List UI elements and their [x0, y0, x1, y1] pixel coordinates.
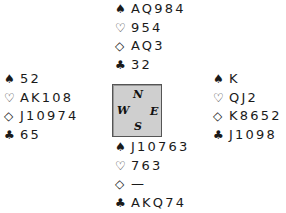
- south-clubs-row: ♣AKQ74: [115, 194, 189, 213]
- heart-icon: ♡: [115, 157, 131, 176]
- south-hearts-row: ♡763: [115, 157, 189, 176]
- west-diamonds: J10974: [20, 108, 78, 123]
- spade-icon: ♠: [115, 0, 131, 19]
- heart-icon: ♡: [115, 19, 131, 38]
- north-hearts-row: ♡954: [115, 19, 186, 38]
- east-clubs: J1098: [229, 127, 277, 142]
- spade-icon: ♠: [4, 70, 20, 89]
- west-spades: 52: [20, 71, 41, 86]
- north-diamonds-row: ◇AQ3: [115, 37, 186, 56]
- south-clubs: AKQ74: [131, 195, 186, 210]
- north-clubs: 32: [131, 57, 152, 72]
- north-diamonds: AQ3: [131, 38, 165, 53]
- east-hearts: QJ2: [229, 90, 258, 105]
- compass-south-label: S: [134, 120, 142, 133]
- west-hand: ♠52 ♡AK108 ◇J10974 ♣65: [4, 70, 78, 144]
- club-icon: ♣: [213, 126, 229, 145]
- east-spades: K: [229, 71, 240, 86]
- diamond-icon: ◇: [213, 107, 229, 126]
- north-clubs-row: ♣32: [115, 56, 186, 75]
- east-spades-row: ♠K: [213, 70, 282, 89]
- north-hand: ♠AQ984 ♡954 ◇AQ3 ♣32: [115, 0, 186, 74]
- compass-north-label: N: [133, 88, 143, 101]
- diamond-icon: ◇: [115, 37, 131, 56]
- compass-west-label: W: [117, 104, 129, 117]
- heart-icon: ♡: [4, 89, 20, 108]
- club-icon: ♣: [115, 56, 131, 75]
- west-hearts: AK108: [20, 90, 73, 105]
- east-clubs-row: ♣J1098: [213, 126, 282, 145]
- diamond-icon: ◇: [115, 175, 131, 194]
- west-hearts-row: ♡AK108: [4, 89, 78, 108]
- west-spades-row: ♠52: [4, 70, 78, 89]
- east-diamonds-row: ◇K8652: [213, 107, 282, 126]
- east-diamonds: K8652: [229, 108, 282, 123]
- club-icon: ♣: [4, 126, 20, 145]
- south-spades: J10763: [131, 139, 189, 154]
- spade-icon: ♠: [115, 138, 131, 157]
- west-diamonds-row: ◇J10974: [4, 107, 78, 126]
- spade-icon: ♠: [213, 70, 229, 89]
- north-spades: AQ984: [131, 1, 186, 16]
- club-icon: ♣: [115, 194, 131, 213]
- heart-icon: ♡: [213, 89, 229, 108]
- west-clubs-row: ♣65: [4, 126, 78, 145]
- north-spades-row: ♠AQ984: [115, 0, 186, 19]
- south-hearts: 763: [131, 158, 162, 173]
- south-diamonds: —: [131, 176, 146, 191]
- diamond-icon: ◇: [4, 107, 20, 126]
- north-hearts: 954: [131, 20, 162, 35]
- south-spades-row: ♠J10763: [115, 138, 189, 157]
- compass-box: N W E S: [112, 84, 162, 137]
- compass-east-label: E: [150, 105, 158, 118]
- east-hearts-row: ♡QJ2: [213, 89, 282, 108]
- east-hand: ♠K ♡QJ2 ◇K8652 ♣J1098: [213, 70, 282, 144]
- south-diamonds-row: ◇—: [115, 175, 189, 194]
- south-hand: ♠J10763 ♡763 ◇— ♣AKQ74: [115, 138, 189, 212]
- west-clubs: 65: [20, 127, 41, 142]
